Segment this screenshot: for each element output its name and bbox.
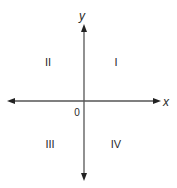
x-axis-label: x bbox=[163, 97, 169, 108]
y-axis-label: y bbox=[79, 11, 85, 22]
x-axis-right-arrow-icon bbox=[153, 98, 161, 104]
y-axis-up-arrow-icon bbox=[81, 24, 87, 32]
x-axis-left-arrow-icon bbox=[7, 98, 15, 104]
origin-label: 0 bbox=[74, 107, 80, 118]
quadrant-iv-label: IV bbox=[111, 139, 121, 150]
quadrant-i-label: I bbox=[114, 57, 117, 68]
axes-graphic bbox=[0, 0, 177, 188]
coordinate-plane: y x 0 I II III IV bbox=[0, 0, 177, 188]
y-axis-down-arrow-icon bbox=[81, 173, 87, 181]
quadrant-iii-label: III bbox=[45, 139, 54, 150]
quadrant-ii-label: II bbox=[45, 57, 51, 68]
